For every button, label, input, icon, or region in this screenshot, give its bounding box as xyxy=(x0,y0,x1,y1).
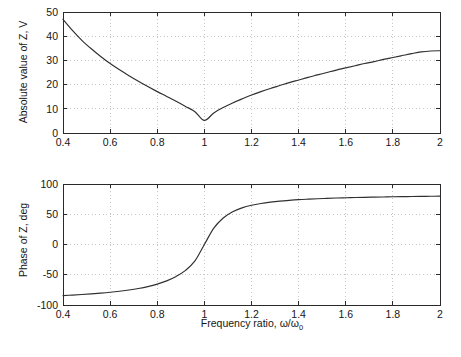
magnitude-plot-panel: 0.40.60.811.21.41.61.82 01020304050 Abso… xyxy=(0,0,461,175)
x-tick-label: 0.6 xyxy=(103,136,118,148)
x-tick-label: 1.6 xyxy=(338,308,353,320)
phase-plot-svg: 0.40.60.811.21.41.61.82 -100-50050100 Ph… xyxy=(0,175,461,357)
y-tick-label: 10 xyxy=(46,103,58,115)
y-tick-label: 0 xyxy=(52,127,58,139)
impedance-bode-figure: 0.40.60.811.21.41.61.82 01020304050 Abso… xyxy=(0,0,461,357)
phase-y-axis-label: Phase of Z, deg xyxy=(17,203,29,277)
x-tick-label: 2 xyxy=(437,136,443,148)
phase-y-tick-labels: -100-50050100 xyxy=(37,178,58,311)
x-tick-label: 2 xyxy=(437,308,443,320)
x-axis-label-omega-num: ω xyxy=(280,317,288,329)
y-tick-label: 50 xyxy=(46,208,58,220)
x-axis-label: Frequency ratio, ω/ω0 xyxy=(201,317,303,332)
x-tick-label: 0.8 xyxy=(150,308,165,320)
y-tick-label: 30 xyxy=(46,54,58,66)
y-tick-label: 40 xyxy=(46,30,58,42)
y-tick-label: -50 xyxy=(43,268,58,280)
x-axis-label-subscript: 0 xyxy=(299,323,303,332)
x-tick-label: 1.8 xyxy=(386,136,401,148)
x-tick-label: 1.4 xyxy=(291,136,306,148)
magnitude-gridlines xyxy=(63,12,440,133)
x-tick-label: 1.6 xyxy=(338,136,353,148)
x-axis-label-omega-den: ω xyxy=(291,317,299,329)
x-tick-label: 1.8 xyxy=(386,308,401,320)
x-axis-label-prefix: Frequency ratio, xyxy=(201,317,280,329)
y-tick-label: 100 xyxy=(40,178,58,190)
x-tick-label: 1.2 xyxy=(244,136,259,148)
phase-gridlines xyxy=(63,184,440,305)
y-tick-label: 50 xyxy=(46,6,58,18)
y-tick-label: -100 xyxy=(37,299,58,311)
magnitude-y-tick-labels: 01020304050 xyxy=(46,6,58,139)
magnitude-y-axis-label: Absolute value of Z, V xyxy=(17,21,29,124)
x-tick-label: 1 xyxy=(201,136,207,148)
phase-plot-panel: 0.40.60.811.21.41.61.82 -100-50050100 Ph… xyxy=(0,175,461,357)
x-tick-label: 0.8 xyxy=(150,136,165,148)
y-tick-label: 20 xyxy=(46,78,58,90)
magnitude-plot-svg: 0.40.60.811.21.41.61.82 01020304050 Abso… xyxy=(0,0,461,175)
x-tick-label: 0.6 xyxy=(103,308,118,320)
y-tick-label: 0 xyxy=(52,238,58,250)
magnitude-x-tick-labels: 0.40.60.811.21.41.61.82 xyxy=(56,136,443,148)
